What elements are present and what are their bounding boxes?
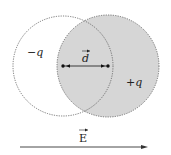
dipole-diagram: d −q +q E xyxy=(0,0,171,155)
dipole-label: d xyxy=(82,52,89,65)
pos-charge-label: +q xyxy=(126,76,142,89)
diagram-canvas: d −q +q E xyxy=(0,0,171,155)
field-label: E xyxy=(79,132,87,145)
field-arrow xyxy=(20,145,148,149)
neg-charge-label: −q xyxy=(27,46,43,59)
